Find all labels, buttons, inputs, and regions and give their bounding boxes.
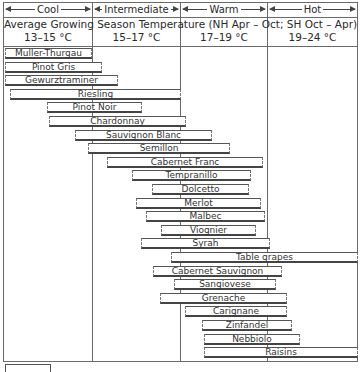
variety-bar: Syrah: [141, 238, 270, 249]
arrow-left-icon: [269, 6, 275, 12]
legend-box: [5, 364, 51, 372]
arrow-right-icon: [85, 6, 91, 12]
variety-bar: Cabernet Sauvignon: [153, 266, 282, 277]
variety-bar: Chardonnay: [49, 116, 186, 127]
zone-label: Warm: [207, 4, 240, 15]
variety-bar: Pinot Noir: [47, 102, 142, 113]
chart-subtitle: Average Growing Season Temperature (NH A…: [3, 18, 358, 30]
zone-cool: Cool: [4, 3, 92, 16]
range-intermediate: 15–17 °C: [93, 31, 180, 43]
variety-bar: Viognier: [161, 225, 256, 236]
variety-bar: Sauvignon Blanc: [75, 130, 212, 141]
variety-bar: Zinfandel: [202, 320, 292, 331]
variety-bar: Raisins: [204, 347, 358, 358]
variety-bar: Carignane: [185, 306, 287, 317]
arrow-right-icon: [350, 6, 356, 12]
variety-bar: Table grapes: [171, 252, 358, 263]
arrow-right-icon: [173, 6, 179, 12]
range-hot: 19–24 °C: [268, 31, 357, 43]
variety-bar: Semillon: [88, 143, 230, 154]
zone-intermediate: Intermediate: [93, 3, 180, 16]
gridline-15c: [92, 2, 93, 362]
variety-bar: Cabernet Franc: [107, 157, 263, 168]
variety-bar: Gewurztraminer: [5, 75, 118, 86]
zone-label: Intermediate: [102, 4, 171, 15]
zone-label: Hot: [302, 4, 324, 15]
variety-bar: Nebbiolo: [204, 334, 300, 345]
arrow-left-icon: [94, 6, 100, 12]
variety-bar: Dolcetto: [152, 184, 249, 195]
variety-bar: Grenache: [160, 293, 287, 304]
zone-hot: Hot: [268, 3, 357, 16]
zone-label: Cool: [35, 4, 61, 15]
variety-bar: Muller-Thurgau: [5, 48, 92, 59]
grape-temperature-chart: Cool Intermediate Warm Hot Average Growi…: [0, 0, 361, 372]
arrow-left-icon: [5, 6, 11, 12]
variety-bar: Pinot Gris: [5, 62, 102, 73]
variety-bar: Sangiovese: [174, 279, 276, 290]
range-cool: 13–15 °C: [4, 31, 92, 43]
variety-bar: Malbec: [146, 211, 265, 222]
zone-warm: Warm: [181, 3, 267, 16]
gridline-17c: [180, 2, 181, 362]
range-warm: 17–19 °C: [181, 31, 267, 43]
arrow-right-icon: [260, 6, 266, 12]
variety-bar: Tempranillo: [132, 170, 251, 181]
arrow-left-icon: [182, 6, 188, 12]
variety-bar: Riesling: [10, 89, 181, 100]
variety-bar: Merlot: [136, 198, 261, 209]
